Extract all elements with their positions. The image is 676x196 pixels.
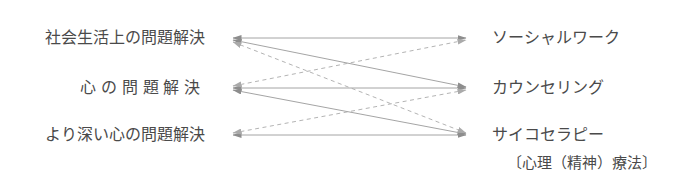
right-label-social-work: ソーシャルワーク	[492, 30, 620, 46]
left-label-mind-problem-solving: 心の問題解決	[75, 80, 205, 96]
left-label-social-problem-solving: 社会生活上の問題解決	[45, 30, 205, 46]
edge-solid-0-1	[233, 40, 466, 87]
diagram-figure: 社会生活上の問題解決 心の問題解決 より深い心の問題解決 ソーシャルワーク カウ…	[0, 0, 676, 196]
right-label-psychotherapy: サイコセラピー	[492, 127, 604, 143]
left-label-deeper-mind-problem-solving: より深い心の問題解決	[45, 127, 205, 143]
right-label-psychotherapy-sublabel: 〔心理（精神）療法〕	[507, 156, 657, 171]
edge-solid-1-2	[233, 90, 466, 134]
edge-dashed-0-2	[233, 42, 466, 133]
right-label-counseling: カウンセリング	[492, 80, 604, 96]
